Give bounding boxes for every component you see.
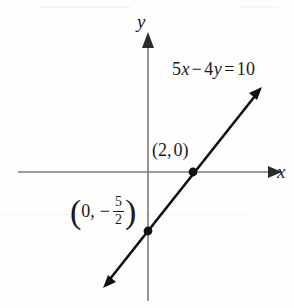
fraction-denominator: 2 xyxy=(113,213,124,228)
point-marker-x-intercept xyxy=(189,168,198,177)
equation-label: 5x−4y=10 xyxy=(172,60,256,78)
point-label-y-intercept: (0,−52) xyxy=(70,193,136,229)
equation-var-x: x xyxy=(181,59,189,79)
y-axis xyxy=(142,32,154,301)
equation-coef-x: 5 xyxy=(172,59,181,79)
x-axis xyxy=(18,166,282,178)
equation-rhs: 10 xyxy=(237,59,256,79)
point-x-value: 2 xyxy=(158,140,167,160)
fraction-five-halves: 52 xyxy=(113,195,124,227)
paren-close: ) xyxy=(183,140,189,160)
equation-coef-y: 4 xyxy=(204,59,213,79)
fraction-numerator: 5 xyxy=(113,195,124,210)
axis-label-y: y xyxy=(137,12,145,31)
figure-canvas: y x 5x−4y=10 (2,0) (0,−52) xyxy=(0,0,294,308)
coordinate-plane xyxy=(0,0,294,308)
point-x-value: 0 xyxy=(81,202,90,220)
point-y-value: 0 xyxy=(174,140,183,160)
axis-label-x: x xyxy=(277,162,285,181)
equation-equals: = xyxy=(222,59,237,79)
point-minus-sign: − xyxy=(97,202,112,220)
point-marker-y-intercept xyxy=(144,227,153,236)
equation-var-y: y xyxy=(214,59,222,79)
plotted-line xyxy=(103,87,262,288)
equation-operator: − xyxy=(190,59,205,79)
point-label-x-intercept: (2,0) xyxy=(152,141,189,159)
